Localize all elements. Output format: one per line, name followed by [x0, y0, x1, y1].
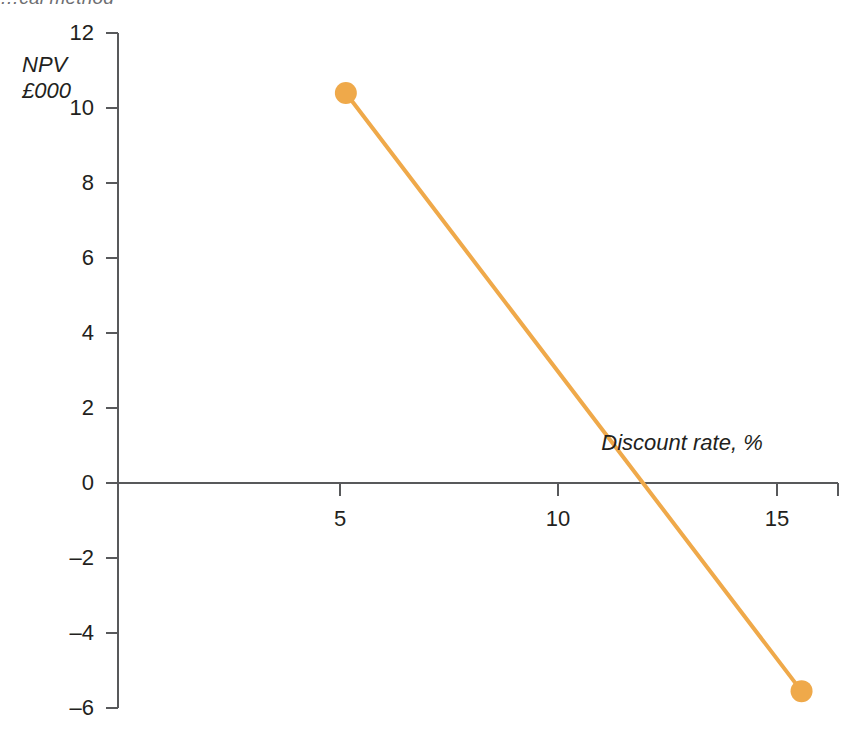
y-tick-label: 8	[54, 170, 94, 196]
y-tick-label: –2	[44, 545, 94, 571]
x-axis-title: Discount rate, %	[601, 430, 762, 456]
y-axis-title: NPV £000	[22, 52, 71, 104]
chart-page: …cal method	[0, 0, 867, 734]
data-point-marker[interactable]	[791, 680, 813, 702]
x-axis-ticks	[340, 483, 838, 496]
y-axis-title-line-2: £000	[22, 78, 71, 104]
y-tick-label: 12	[54, 20, 94, 46]
x-tick-label: 15	[765, 506, 789, 532]
y-axis-ticks	[106, 33, 118, 708]
data-point-marker[interactable]	[335, 82, 357, 104]
chart-canvas	[0, 0, 867, 734]
npv-discount-rate-chart: 12 10 8 6 4 2 0 –2 –4 –6 5 10 15 NPV £00…	[0, 0, 867, 734]
x-tick-label: 5	[334, 506, 346, 532]
x-tick-label: 10	[546, 506, 570, 532]
y-tick-label: –4	[44, 620, 94, 646]
y-tick-label: 2	[54, 395, 94, 421]
y-tick-label: –6	[44, 695, 94, 721]
npv-series-line	[346, 93, 802, 691]
y-tick-label: 4	[54, 320, 94, 346]
y-tick-label: 6	[54, 245, 94, 271]
y-axis-title-line-1: NPV	[22, 52, 71, 78]
y-tick-label: 0	[54, 470, 94, 496]
